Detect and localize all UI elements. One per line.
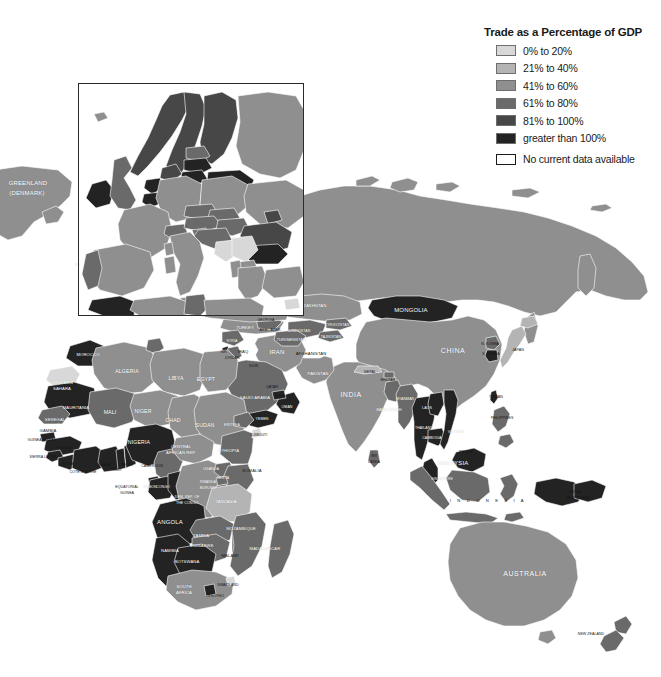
map-label-japan: JAPAN: [512, 348, 524, 352]
map-label-vietnam: VIETNAM: [448, 430, 464, 434]
map-label-zambia: ZAMBIA: [193, 533, 209, 538]
map-label-gabon: GABON: [143, 485, 156, 489]
map-label-malawi: MALAWI: [222, 553, 239, 558]
map-label-mali: MALI: [104, 409, 117, 415]
country-mozambique: [230, 512, 266, 576]
country-libya: [150, 348, 206, 396]
map-label-qatar: QATAR: [266, 385, 278, 389]
map-label-sierra-leone: SIERRA LEONE: [30, 455, 57, 459]
map-label-azerbaijan: AZER.: [271, 328, 282, 332]
map-label-egypt: EGYPT: [197, 376, 215, 382]
map-label-car: CENTRAL: [171, 444, 191, 449]
map-label-uganda: UGANDA: [203, 467, 219, 471]
legend-row-1: 21% to 40%: [483, 61, 658, 76]
map-label-saudi-arabia: SAUDI ARABIA: [240, 395, 270, 400]
map-label-myanmar: MYANMAR: [396, 397, 414, 401]
country-tasmania: [538, 630, 556, 644]
map-label-madagascar: MADAGASCAR: [250, 546, 281, 551]
map-label-guinea: GUINEA: [57, 446, 71, 450]
island-wrangel: [590, 204, 612, 212]
map-label-ghana: GHANA: [97, 463, 110, 467]
map-label-nigeria: NIGERIA: [128, 439, 150, 445]
europe-inset-map: [80, 85, 303, 315]
legend-label-6: No current data available: [523, 153, 635, 165]
map-label-car2: AFRICAN REP.: [166, 450, 196, 455]
map-label-south-korea: S. KOREA: [482, 352, 499, 356]
map-label-burundi: BURUNDI: [200, 486, 217, 490]
map-label-greenland-2: (DENMARK): [9, 190, 44, 196]
inset-country-cyprus: [284, 298, 300, 310]
legend-swatch-5: [496, 133, 516, 144]
map-label-south-africa2: AFRICA: [176, 590, 192, 595]
map-label-papua-new-guinea: PAPUA: [569, 490, 581, 494]
map-label-iran: IRAN: [270, 349, 285, 355]
island-novaya-zemlya: [390, 178, 418, 192]
legend-label-0: 0% to 20%: [523, 45, 572, 57]
country-greenland: [0, 166, 72, 240]
map-label-niger: NIGER: [134, 408, 151, 414]
map-label-botswana: BOTSWANA: [175, 559, 200, 564]
map-label-morocco: MOROCCO: [76, 352, 99, 357]
map-label-somalia: SOMALIA: [242, 468, 261, 473]
map-label-singapore: SINGAPORE: [431, 477, 453, 481]
map-label-sudan: SUDAN: [196, 422, 215, 428]
map-label-australia: AUSTRALIA: [503, 570, 546, 577]
map-label-mauritania: MAURITANIA: [63, 405, 90, 410]
map-label-cambodia: CAMBODIA: [422, 436, 442, 440]
europe-inset-panel: [80, 85, 303, 315]
map-label-libya: LIBYA: [168, 375, 183, 381]
map-label-djibouti: DJIBOUTI: [251, 433, 268, 437]
map-label-papua-new-guinea2: NEW GUINEA: [566, 496, 590, 500]
map-label-armenia: ARM.: [259, 328, 268, 332]
inset-country-sardinia: [164, 256, 176, 274]
map-label-turkmenistan: TURKMENISTAN: [277, 338, 306, 342]
map-label-taiwan: TAIWAN: [489, 395, 503, 399]
legend-row-0: 0% to 20%: [483, 43, 658, 58]
map-label-tanzania: TANZANIA: [215, 499, 236, 504]
map-label-new-zealand: NEW ZEALAND: [578, 632, 605, 636]
map-label-equatorial-guinea2: GUINEA: [120, 491, 134, 495]
map-label-oman: OMAN: [282, 405, 293, 409]
legend-swatch-2: [496, 80, 516, 91]
map-label-western-sahara2: SAHARA: [53, 386, 71, 391]
map-label-western-sahara: WESTERN: [51, 380, 73, 385]
legend-label-2: 41% to 60%: [523, 80, 578, 92]
map-label-north-korea: N. KOREA: [481, 342, 499, 346]
map-label-bhutan: BHUTAN: [381, 378, 396, 382]
map-label-congo: CONGO: [156, 485, 170, 489]
inset-country-turkey-w: [262, 266, 303, 298]
map-label-togo: TOGO: [111, 468, 122, 472]
map-label-china: CHINA: [441, 347, 465, 354]
map-label-sri-lanka: SRI: [371, 454, 377, 458]
legend-label-1: 21% to 40%: [523, 62, 578, 74]
map-label-afghanistan: AFGHANISTAN: [296, 351, 327, 356]
country-timor: [504, 512, 524, 522]
map-label-tajikistan: TAJIKISTAN: [321, 335, 341, 339]
map-label-sri-lanka2: LANKA: [368, 460, 380, 464]
map-label-uae: U.A.E.: [275, 394, 286, 398]
map-label-gambia: GAMBIA: [40, 428, 57, 433]
map-label-eritrea: ERITREA: [224, 423, 240, 427]
legend-row-3: 61% to 80%: [483, 96, 658, 111]
map-label-pakistan: PAKISTAN: [308, 371, 329, 376]
legend-row-6: No current data available: [483, 152, 658, 167]
map-label-iraq: IRAQ: [238, 349, 249, 354]
country-sri-lanka: [368, 450, 380, 468]
map-label-kuwait: KUW.: [249, 364, 258, 368]
map-label-laos: LAOS: [422, 406, 432, 410]
map-label-kyrgyzstan: KYRGYZSTAN: [325, 323, 350, 327]
island-new-siberian: [512, 188, 540, 198]
map-label-drc: DEM. REP. OF: [175, 495, 200, 499]
legend-swatch-6: [496, 154, 516, 165]
inset-country-corsica: [164, 242, 174, 256]
map-label-jordan: JORDAN: [224, 356, 239, 360]
map-label-equatorial-guinea: EQUATORIAL: [115, 485, 138, 489]
map-label-india: INDIA: [340, 391, 361, 398]
legend-label-4: 81% to 100%: [523, 115, 583, 127]
legend-label-3: 61% to 80%: [523, 97, 578, 109]
map-label-philippines: PHILIPPINES: [491, 416, 514, 420]
map-label-ethiopia: ETHIOPIA: [219, 448, 239, 453]
island-severnaya-zemlya: [436, 182, 460, 192]
map-label-rwanda: RWANDA: [200, 480, 216, 484]
map-label-angola: ANGOLA: [157, 519, 183, 525]
